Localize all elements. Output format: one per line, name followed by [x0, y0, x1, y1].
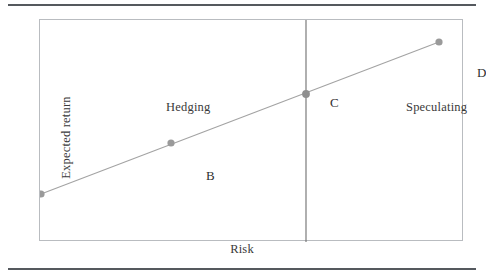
y-axis-label: Expected return: [59, 83, 74, 193]
data-point-c[interactable]: [302, 90, 310, 98]
top-rule-divider: [8, 4, 476, 6]
risk-return-line: [41, 42, 439, 194]
region-label-hedging: Hedging: [166, 100, 210, 115]
data-point-a[interactable]: [40, 190, 45, 197]
region-label-speculating: Speculating: [406, 100, 467, 115]
bottom-rule-divider: [8, 268, 476, 270]
x-axis-label: Risk: [0, 242, 484, 257]
plot-area: Hedging Speculating B C D Expected retur…: [39, 19, 463, 241]
data-point-d[interactable]: [435, 38, 442, 45]
point-label-c: C: [330, 95, 339, 111]
plot-graphics: [40, 20, 464, 242]
data-point-b[interactable]: [167, 139, 174, 146]
point-label-d: D: [477, 65, 486, 81]
point-label-b: B: [206, 168, 215, 184]
